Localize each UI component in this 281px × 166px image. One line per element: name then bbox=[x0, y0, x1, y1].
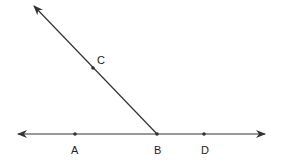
label-c: C bbox=[97, 54, 105, 66]
point-b bbox=[155, 132, 159, 136]
point-d bbox=[202, 132, 206, 136]
ray-bc bbox=[34, 6, 157, 134]
geometry-diagram: C A B D bbox=[0, 0, 281, 166]
label-a: A bbox=[71, 144, 79, 156]
diagram-svg: C A B D bbox=[0, 0, 281, 166]
label-b: B bbox=[154, 144, 161, 156]
point-a bbox=[73, 132, 77, 136]
point-c bbox=[91, 66, 95, 70]
label-d: D bbox=[201, 144, 209, 156]
